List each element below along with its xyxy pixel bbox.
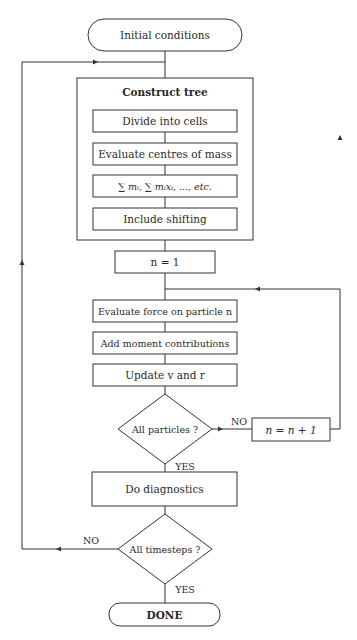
arrow-left-icon [255, 287, 260, 292]
particles-no-label: NO [225, 414, 253, 428]
done-label: DONE [109, 603, 220, 626]
arrow-left-icon [56, 547, 61, 552]
arrow-right-icon [93, 60, 98, 65]
start-label: Initial conditions [88, 19, 242, 51]
divide-cells-step: Divide into cells [93, 110, 237, 132]
timesteps-yes-label: YES [170, 582, 200, 596]
sums-step: ∑ mᵢ, ∑ mᵢxᵢ, ..., etc. [93, 175, 237, 197]
arrow-up-icon [20, 260, 25, 265]
moment-contributions-step: Add moment contributions [93, 332, 237, 354]
centres-of-mass-step: Evaluate centres of mass [93, 143, 237, 165]
arrow-up-icon [338, 135, 343, 140]
all-particles-label: All particles ? [118, 419, 212, 439]
arrow-right-icon [218, 427, 223, 432]
include-shifting-step: Include shifting [93, 208, 237, 230]
particles-yes-label: YES [170, 459, 200, 473]
construct-tree-title: Construct tree [77, 82, 253, 102]
init-n-step: n = 1 [115, 251, 215, 273]
update-step: Update v and r [93, 364, 237, 386]
evaluate-force-step: Evaluate force on particle n [93, 300, 237, 322]
timesteps-no-label: NO [76, 533, 106, 547]
all-timesteps-label: All timesteps ? [118, 539, 212, 559]
diagnostics-step: Do diagnostics [92, 472, 237, 506]
increment-step: n = n + 1 [252, 418, 330, 441]
